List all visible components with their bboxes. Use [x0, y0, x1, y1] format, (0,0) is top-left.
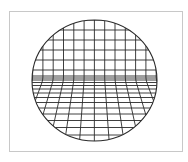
grid-diagram — [0, 0, 188, 162]
